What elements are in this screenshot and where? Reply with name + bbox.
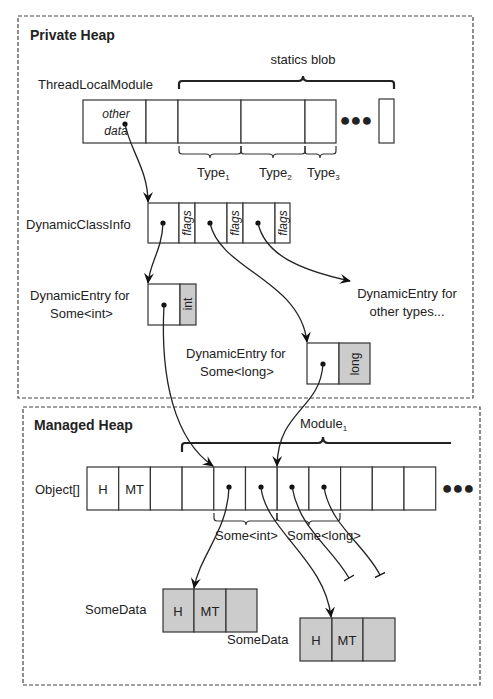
tlm-last-cell [379,99,394,143]
dynamic-entry-other: DynamicEntry for other types... [357,286,457,319]
object-array: Object[] HMT ●●● [35,467,474,510]
managed-heap-region: Managed Heap Module1 Object[] HMT ●●● So… [23,407,480,685]
flags-label-1: flags [180,210,194,235]
private-heap-region: Private Heap ThreadLocalModule statics b… [18,16,473,398]
object-array-label: Object[] [35,482,80,497]
flags-label-2: flags [228,210,242,235]
tlm-cell-type3 [305,100,336,143]
type1-brace [179,146,241,158]
type2-brace [241,146,305,158]
thread-local-module-label: ThreadLocalModule [38,77,153,92]
ellipsis-icon: ●●● [442,478,475,498]
some-long-brace [277,513,340,525]
some-data-1-data-cell [226,589,257,632]
type3-label: Type3 [307,165,340,182]
ellipsis-icon: ●●● [340,110,373,130]
dynamic-entry-int: DynamicEntry for Some<int> int [30,284,196,325]
object-array-cell [150,467,182,510]
other-data-line1: other [102,107,130,121]
statics-blob-brace [179,76,394,89]
object-array-cell [372,467,404,510]
dynamic-entry-long: DynamicEntry for Some<long> long [186,343,370,384]
mt-label: MT [201,604,220,619]
module-brace [182,437,451,452]
tlm-cell-type2 [241,100,305,143]
object-array-cell [404,467,436,510]
module-label: Module1 [300,416,348,433]
some-int-label: Some<int> [215,528,278,543]
h-label: H [311,633,320,648]
some-data-2-label: SomeData [227,632,289,647]
arrow-entry-int-to-object-array [163,305,213,466]
statics-blob-label: statics blob [270,52,335,67]
managed-heap-title: Managed Heap [34,417,133,433]
dynamic-entry-int-line1: DynamicEntry for [30,288,130,303]
dynamic-entry-long-line2: Some<long> [200,364,274,379]
object-array-cell-label: H [98,482,107,497]
long-tag: long [348,353,362,376]
flags-label-3: flags [276,210,290,235]
thread-local-module: ThreadLocalModule statics blob other dat… [38,52,394,182]
private-heap-title: Private Heap [30,27,115,43]
type3-brace [305,146,336,158]
heap-diagram: Private Heap ThreadLocalModule statics b… [0,0,493,699]
tlm-cell-type1 [178,100,241,143]
some-data-1: SomeData H MT [85,589,257,632]
object-array-cell [182,467,214,510]
object-array-cell [341,467,373,510]
some-data-2-data-cell [363,618,395,661]
dynamic-class-info: DynamicClassInfo flags flags flags [26,203,290,243]
some-data-1-label: SomeData [85,602,147,617]
mt-label: MT [338,633,357,648]
dynamic-entry-long-line1: DynamicEntry for [186,346,286,361]
type1-label: Type1 [197,165,230,182]
dynamic-entry-other-line1: DynamicEntry for [357,286,457,301]
type2-label: Type2 [259,165,292,182]
dynamic-entry-other-line2: other types... [369,304,444,319]
dynamic-entry-int-line2: Some<int> [50,306,113,321]
int-tag: int [181,297,195,310]
tlm-cell [146,100,178,143]
h-label: H [173,604,182,619]
object-array-cell-label: MT [125,482,144,497]
dynamic-class-info-label: DynamicClassInfo [26,217,131,232]
